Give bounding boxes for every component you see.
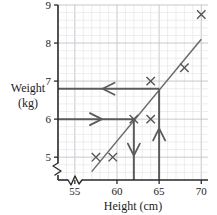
y-tick-label: 9	[46, 0, 52, 11]
y-axis-title-line2: (kg)	[18, 96, 38, 110]
x-tick-label: 70	[196, 185, 208, 197]
x-tick-label: 55	[69, 185, 81, 197]
x-tick-labels: 55606570	[69, 185, 207, 197]
y-tick-label: 7	[46, 75, 52, 87]
y-tick-label: 6	[46, 113, 52, 125]
y-tick-labels: 56789	[46, 0, 52, 163]
x-tick-label: 60	[111, 185, 123, 197]
x-tick-label: 65	[154, 185, 166, 197]
y-tick-label: 8	[46, 37, 52, 49]
plot-area: 55606570 56789 Height (cm) Weight (kg)	[0, 0, 217, 215]
x-axis-title: Height (cm)	[104, 199, 162, 213]
y-tick-label: 5	[46, 151, 52, 163]
scatter-chart: 55606570 56789 Height (cm) Weight (kg)	[0, 0, 217, 215]
y-axis-title-line1: Weight	[11, 81, 46, 95]
